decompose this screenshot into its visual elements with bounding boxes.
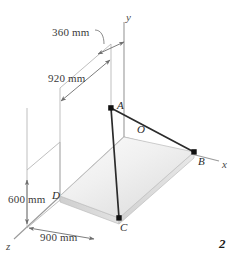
dimension-label-600: 600 mm [8, 193, 46, 205]
joint-B [191, 149, 196, 154]
dimension-line-360 [95, 30, 124, 54]
figure-drawing [0, 0, 233, 256]
dimension-label-360: 360 mm [52, 26, 90, 38]
point-label-B: B [198, 155, 205, 167]
page-number: 2 [219, 236, 226, 252]
dimension-label-900: 900 mm [40, 231, 78, 243]
axis-label-y: y [126, 11, 131, 23]
mechanics-figure: 360 mm 920 mm 600 mm 900 mm A B C D O x … [0, 0, 233, 256]
joint-C [116, 215, 121, 220]
point-label-A: A [117, 99, 124, 111]
joint-A [108, 105, 113, 110]
plate-body [60, 137, 194, 224]
axis-label-x: x [222, 158, 227, 170]
point-label-O: O [137, 123, 145, 135]
axis-label-z: z [6, 240, 10, 252]
point-label-D: D [52, 189, 60, 201]
dimension-label-920: 920 mm [48, 72, 86, 84]
point-label-C: C [120, 221, 127, 233]
